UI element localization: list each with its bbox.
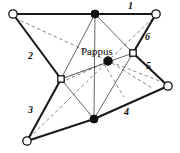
thick-edge-2 [13,14,61,79]
node-right[interactable] [164,82,172,90]
edge-label-4: 4 [124,107,129,117]
node-top-right[interactable] [152,10,160,18]
node-mid-right[interactable] [130,50,136,56]
edge-label-3: 3 [28,105,33,115]
edge-label-2: 2 [28,51,33,61]
thin-edge-mid-left-to-bottom-center [61,79,94,119]
edge-label-5: 5 [146,61,151,71]
dashed-edge-pappus-to-lower [104,64,124,97]
node-pappus-point[interactable] [104,57,112,65]
thick-edge-4-right [94,86,168,119]
dashed-edge-pappus-to-left-low [66,64,103,80]
pappus-figure: Pappus 1 2 3 4 5 6 [0,0,180,153]
node-bottom-left[interactable] [23,137,31,145]
edge-label-6: 6 [145,32,150,42]
figure-canvas [0,0,180,153]
node-top-center[interactable] [91,10,99,18]
pappus-label: Pappus [81,46,113,57]
dashed-edge-right-to-pappus [108,61,165,83]
edge-label-1: 1 [128,1,133,11]
node-bottom-center[interactable] [90,115,98,123]
node-top-left[interactable] [9,10,17,18]
node-mid-left[interactable] [58,76,64,82]
